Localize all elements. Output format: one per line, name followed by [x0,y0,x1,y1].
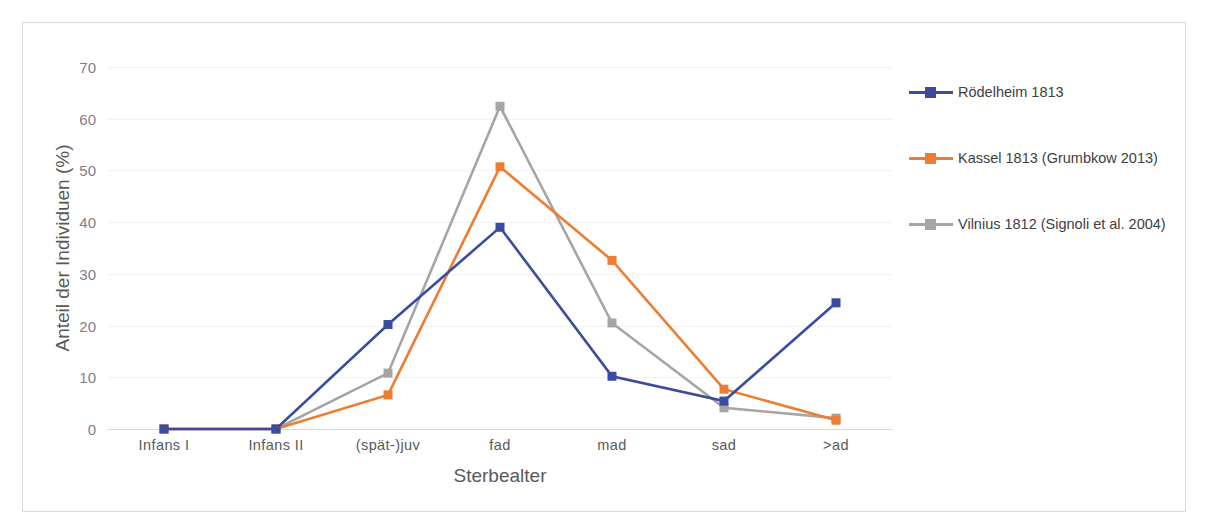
legend-item[interactable]: Vilnius 1812 (Signoli et al. 2004) [909,213,1166,235]
y-axis-tick-label: 40 [79,214,96,231]
y-axis-title-text: Anteil der Individuen (%) [51,145,73,352]
x-axis-title: Sterbealter [108,465,892,487]
data-point-marker [272,425,281,434]
legend-label: Kassel 1813 (Grumbkow 2013) [958,150,1158,166]
series-3 [160,102,841,434]
chart-figure: Anteil der Individuen (%) 01020304050607… [22,22,1186,512]
legend-marker-icon [925,87,936,98]
legend-swatch-icon [909,85,953,99]
legend-label: Rödelheim 1813 [958,84,1064,100]
data-point-marker [384,369,393,378]
y-axis-tick-label: 20 [79,317,96,334]
y-axis-tick-label: 10 [79,369,96,386]
data-point-marker [496,223,505,232]
x-axis-tick-label: (spät-)juv [356,437,420,453]
data-point-marker [384,320,393,329]
legend-swatch-icon [909,151,953,165]
data-point-marker [720,385,729,394]
x-axis-tick-label: >ad [823,437,849,453]
data-point-marker [720,397,729,406]
legend-marker-icon [925,219,936,230]
plot-area: 010203040506070 Infans IInfans II(spät-)… [108,67,892,429]
y-axis-title: Anteil der Individuen (%) [49,67,75,429]
data-point-marker [608,318,617,327]
series-line [164,227,836,429]
legend-label: Vilnius 1812 (Signoli et al. 2004) [958,216,1166,232]
data-point-marker [832,298,841,307]
x-axis-tick-label: Infans II [248,437,303,453]
y-axis-tick-label: 70 [79,59,96,76]
data-point-marker [496,162,505,171]
data-point-marker [608,256,617,265]
series-layer [108,67,892,429]
y-axis-tick-label: 30 [79,265,96,282]
legend-item[interactable]: Kassel 1813 (Grumbkow 2013) [909,147,1166,169]
x-axis-tick-label: mad [597,437,626,453]
series-1 [160,223,841,434]
data-point-marker [832,416,841,425]
data-point-marker [384,390,393,399]
series-line [164,106,836,429]
x-axis-tick-label: sad [712,437,737,453]
x-axis-tick-label: fad [489,437,510,453]
y-axis-tick-label: 50 [79,162,96,179]
data-point-marker [608,372,617,381]
legend-marker-icon [925,153,936,164]
chart-legend: Rödelheim 1813Kassel 1813 (Grumbkow 2013… [909,81,1166,279]
legend-item[interactable]: Rödelheim 1813 [909,81,1166,103]
data-point-marker [160,425,169,434]
y-axis-tick-label: 0 [88,421,96,438]
series-2 [160,162,841,433]
x-axis-tick-label: Infans I [139,437,190,453]
legend-swatch-icon [909,217,953,231]
data-point-marker [496,102,505,111]
y-axis-tick-label: 60 [79,110,96,127]
x-axis-title-text: Sterbealter [454,465,547,486]
